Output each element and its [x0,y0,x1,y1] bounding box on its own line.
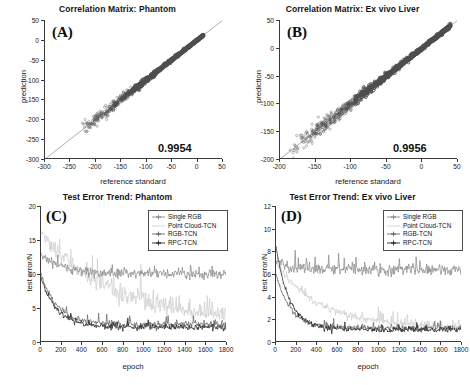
y-tick-mark [41,159,44,160]
x-tick-label: 1600 [433,346,448,353]
legend-item-label: Point Cloud-TCN [401,222,451,231]
legend-line-sample-plus-icon [386,239,401,247]
x-tick-label: 800 [117,346,128,353]
y-tick-mark [276,76,279,77]
x-tick-mark [461,342,462,345]
panel-a-title: Correlation Matrix: Phantom [0,4,235,14]
x-tick-mark [197,159,198,162]
x-tick-label: 400 [76,346,87,353]
x-tick-label: 50 [453,163,460,170]
y-tick-label: 15 [2,237,36,244]
y-tick-label: 6 [237,271,271,278]
panel-a-correlation-value: 0.9954 [158,142,192,154]
y-tick-label: 0 [4,36,39,43]
x-tick-label: 0 [195,163,199,170]
x-tick-label: -50 [381,163,391,170]
y-tick-label: 50 [239,17,274,24]
x-tick-mark [81,342,82,345]
panel-d-legend[interactable]: Single RGBPoint Cloud-TCNRGB-TCNRPC-TCN [383,210,463,251]
y-tick-label: 12 [237,203,271,210]
legend-item[interactable]: Single RGB [386,213,459,222]
x-tick-mark [275,342,276,345]
x-tick-label: 1600 [198,346,213,353]
x-tick-mark [222,159,223,162]
legend-item[interactable]: Single RGB [151,213,224,222]
x-tick-mark [40,342,41,345]
panel-a: Correlation Matrix: Phantom (A) 0.9954 p… [0,0,235,192]
x-tick-label: 600 [331,346,342,353]
x-tick-label: 400 [311,346,322,353]
x-tick-mark [337,342,338,345]
x-tick-label: 1400 [177,346,192,353]
x-tick-mark [420,342,421,345]
figure-canvas: Correlation Matrix: Phantom (A) 0.9954 p… [0,0,470,385]
x-tick-label: -200 [272,163,285,170]
legend-item[interactable]: RPC-TCN [151,239,224,248]
y-tick-label: 5 [2,305,36,312]
legend-item[interactable]: Point Cloud-TCN [386,222,459,231]
panel-c-legend[interactable]: Single RGBPoint Cloud-TCNRGB-TCNRPC-TCN [148,210,228,251]
x-tick-label: 1800 [454,346,469,353]
x-tick-mark [95,159,96,162]
x-tick-label: 1200 [392,346,407,353]
y-tick-mark [41,60,44,61]
y-tick-label: -200 [239,156,274,163]
legend-line-sample-none-icon [386,222,401,230]
y-tick-mark [272,274,275,275]
y-tick-label: 0 [239,44,274,51]
x-tick-label: 800 [352,346,363,353]
x-tick-label: 1200 [157,346,172,353]
x-tick-mark [120,159,121,162]
x-tick-mark [350,159,351,162]
legend-item[interactable]: Point Cloud-TCN [151,222,224,231]
y-tick-label: -300 [4,156,39,163]
y-tick-label: -150 [239,128,274,135]
x-tick-label: 0 [420,163,424,170]
x-tick-mark [358,342,359,345]
y-tick-mark [37,274,40,275]
y-tick-mark [41,99,44,100]
x-tick-mark [123,342,124,345]
panel-c-x-axis-label: epoch [40,362,226,371]
legend-item-label: RPC-TCN [401,239,432,248]
y-tick-label: 0 [237,339,271,346]
x-tick-label: 0 [38,346,42,353]
legend-item-label: Point Cloud-TCN [166,222,216,231]
legend-line-sample-plus-icon [386,230,401,238]
x-tick-mark [386,159,387,162]
x-tick-label: -50 [166,163,176,170]
x-tick-mark [279,159,280,162]
panel-b-y-axis-label: prediction [254,47,263,127]
y-tick-label: 10 [237,225,271,232]
y-tick-label: 8 [237,248,271,255]
x-tick-label: 50 [218,163,225,170]
x-tick-mark [378,342,379,345]
legend-line-sample-plus-icon [151,213,166,221]
panel-a-letter: (A) [52,24,73,41]
y-tick-mark [41,20,44,21]
legend-item[interactable]: RPC-TCN [386,239,459,248]
x-tick-label: -250 [63,163,76,170]
y-tick-label: 2 [237,316,271,323]
x-tick-label: 0 [273,346,277,353]
x-tick-label: -100 [344,163,357,170]
x-tick-mark [421,159,422,162]
x-tick-mark [316,342,317,345]
y-tick-mark [272,229,275,230]
legend-item[interactable]: RGB-TCN [386,230,459,239]
y-tick-mark [41,139,44,140]
y-tick-mark [272,319,275,320]
y-tick-label: 20 [2,203,36,210]
x-tick-label: 1000 [136,346,151,353]
y-tick-label: 50 [4,17,39,24]
legend-item-label: Single RGB [401,213,436,222]
x-tick-mark [171,159,172,162]
y-tick-label: -200 [4,116,39,123]
legend-line-sample-none-icon [151,222,166,230]
legend-item[interactable]: RGB-TCN [151,230,224,239]
y-tick-label: 10 [2,271,36,278]
x-tick-mark [440,342,441,345]
x-tick-mark [146,159,147,162]
x-tick-label: 1400 [412,346,427,353]
x-tick-mark [143,342,144,345]
